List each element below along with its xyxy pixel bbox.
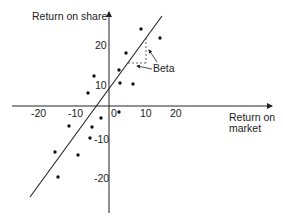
y-tick-labels: 20 10 -10 -20 — [94, 39, 109, 184]
beta-arrow-2 — [149, 50, 157, 62]
svg-text:0: 0 — [111, 107, 117, 119]
y-axis-label: Return on share — [32, 10, 107, 22]
svg-text:-10: -10 — [68, 107, 83, 119]
x-tick-labels: -20 -10 0 10 20 — [31, 107, 182, 119]
x-axis-label-line2: market — [229, 122, 261, 134]
beta-scatter-chart: Return on share Return on market -20 -10… — [0, 0, 283, 224]
svg-text:20: 20 — [95, 39, 107, 51]
beta-label: Beta — [153, 62, 175, 74]
svg-text:-10: -10 — [94, 133, 109, 145]
beta-arrow-1 — [137, 66, 152, 69]
data-points — [53, 27, 161, 178]
svg-text:10: 10 — [140, 107, 152, 119]
svg-text:-20: -20 — [31, 107, 46, 119]
svg-text:20: 20 — [170, 107, 182, 119]
svg-text:10: 10 — [95, 79, 107, 91]
svg-text:-20: -20 — [94, 172, 109, 184]
